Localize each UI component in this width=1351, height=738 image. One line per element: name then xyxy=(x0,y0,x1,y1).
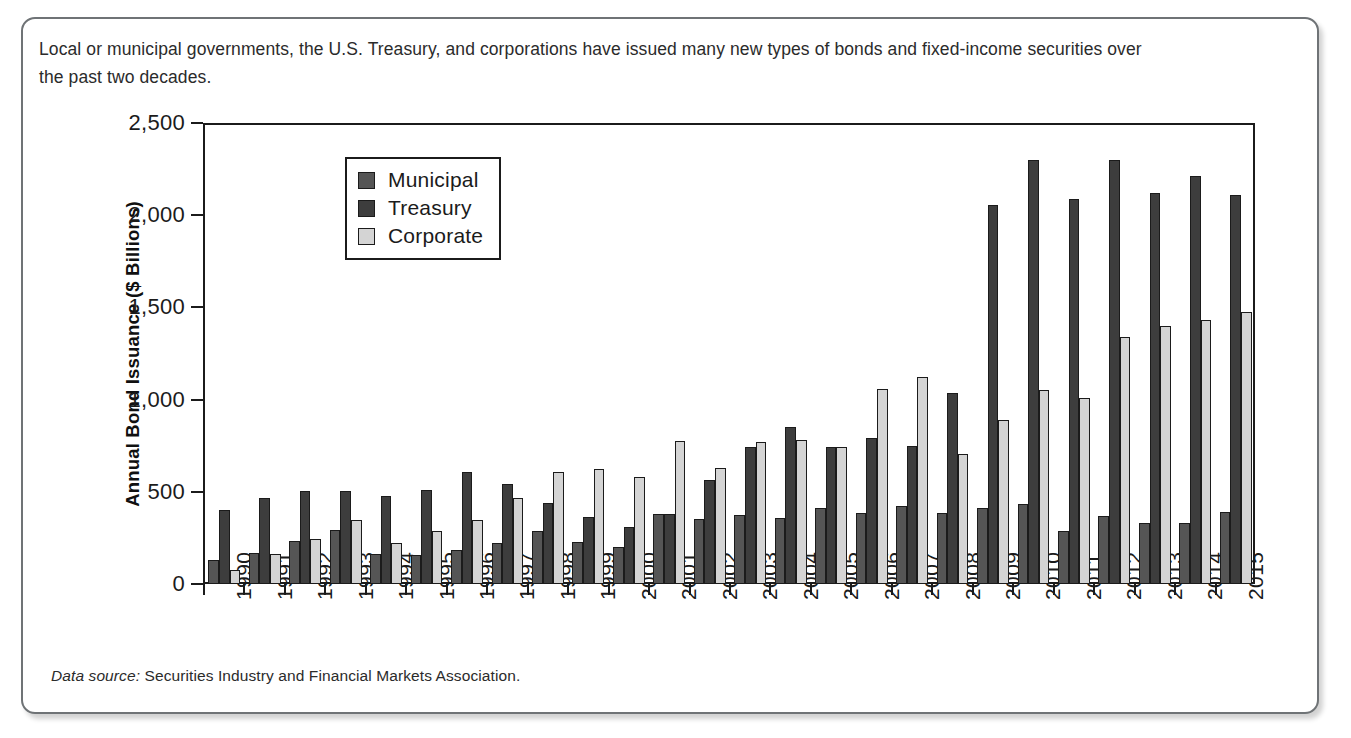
x-axis-tick xyxy=(284,584,286,595)
bar-corporate-1993 xyxy=(351,520,362,584)
bar-corporate-1996 xyxy=(472,520,483,584)
bar-treasury-2013 xyxy=(1150,193,1161,584)
bar-corporate-2015 xyxy=(1241,312,1252,584)
bar-treasury-2011 xyxy=(1069,199,1080,584)
x-axis-tick xyxy=(769,584,771,595)
bar-corporate-2014 xyxy=(1201,320,1212,584)
legend-swatch-icon xyxy=(358,172,375,189)
x-axis-tick xyxy=(729,584,731,595)
bar-municipal-2010 xyxy=(1018,504,1029,584)
bar-treasury-1990 xyxy=(219,510,230,584)
y-axis-tick-label: 0 xyxy=(172,571,185,597)
bar-municipal-2007 xyxy=(896,506,907,584)
bar-corporate-2008 xyxy=(958,454,969,584)
y-axis-tick-label: 1,500 xyxy=(128,294,185,320)
y-axis-tick xyxy=(191,491,203,493)
source-note: Data source: Securities Industry and Fin… xyxy=(51,667,520,685)
legend-label: Treasury xyxy=(388,196,472,220)
y-axis-tick xyxy=(191,583,203,585)
bar-corporate-2000 xyxy=(634,477,645,584)
bar-corporate-2011 xyxy=(1079,398,1090,584)
bar-municipal-2014 xyxy=(1179,523,1190,584)
legend-item-municipal: Municipal xyxy=(358,166,483,194)
bar-corporate-2002 xyxy=(715,468,726,584)
bar-corporate-1998 xyxy=(553,472,564,584)
x-axis-tick xyxy=(850,584,852,595)
bar-municipal-2002 xyxy=(694,519,705,584)
bar-corporate-1991 xyxy=(270,554,281,584)
x-axis-tick xyxy=(243,584,245,595)
bar-treasury-2001 xyxy=(664,514,675,584)
x-axis-tick xyxy=(931,584,933,595)
y-axis-tick xyxy=(191,306,203,308)
bar-municipal-1999 xyxy=(572,542,583,584)
legend-label: Municipal xyxy=(388,168,479,192)
bar-municipal-1995 xyxy=(411,555,422,585)
bar-treasury-2004 xyxy=(785,427,796,584)
x-axis-tick xyxy=(1012,584,1014,595)
bar-corporate-2009 xyxy=(998,420,1009,584)
bar-corporate-2001 xyxy=(675,441,686,584)
x-axis-tick xyxy=(1174,584,1176,595)
bar-municipal-1992 xyxy=(289,541,300,584)
bar-corporate-2003 xyxy=(756,442,767,584)
legend-item-corporate: Corporate xyxy=(358,222,483,250)
bar-corporate-1995 xyxy=(432,531,443,584)
bar-treasury-2002 xyxy=(704,480,715,584)
bar-corporate-2010 xyxy=(1039,390,1050,584)
bar-municipal-2001 xyxy=(653,514,664,584)
bar-treasury-1998 xyxy=(543,503,554,584)
bar-treasury-1997 xyxy=(502,484,513,584)
bar-municipal-1998 xyxy=(532,531,543,584)
bar-treasury-2007 xyxy=(907,446,918,584)
bar-municipal-2003 xyxy=(734,515,745,584)
bar-municipal-1996 xyxy=(451,550,462,584)
bar-treasury-2010 xyxy=(1028,160,1039,584)
bar-corporate-1992 xyxy=(310,539,321,584)
bar-municipal-1997 xyxy=(492,543,503,584)
bar-municipal-2013 xyxy=(1139,523,1150,584)
y-axis-title: Annual Bond Issuance ($ Billions) xyxy=(119,123,147,584)
bar-treasury-1996 xyxy=(462,472,473,584)
legend-item-treasury: Treasury xyxy=(358,194,483,222)
bar-corporate-2013 xyxy=(1160,326,1171,584)
chart-legend: MunicipalTreasuryCorporate xyxy=(345,157,501,260)
bar-treasury-1995 xyxy=(421,490,432,584)
bar-municipal-2011 xyxy=(1058,531,1069,584)
bar-treasury-1993 xyxy=(340,491,351,584)
bar-treasury-2005 xyxy=(826,447,837,584)
x-axis-tick xyxy=(689,584,691,595)
bar-municipal-2004 xyxy=(775,518,786,584)
bar-treasury-2008 xyxy=(947,393,958,584)
bar-corporate-2004 xyxy=(796,440,807,584)
x-axis-tick xyxy=(810,584,812,595)
bar-corporate-2007 xyxy=(917,377,928,584)
bar-corporate-2005 xyxy=(836,447,847,584)
y-axis-tick xyxy=(191,399,203,401)
bar-municipal-2008 xyxy=(937,513,948,584)
x-axis-tick xyxy=(405,584,407,595)
source-note-text: Securities Industry and Financial Market… xyxy=(140,667,520,684)
chart-plot-area: 05001,0001,5002,0002,500 199019911992199… xyxy=(203,123,1255,584)
legend-label: Corporate xyxy=(388,224,483,248)
x-axis-tick xyxy=(891,584,893,595)
x-axis-tick xyxy=(1093,584,1095,595)
x-axis-tick xyxy=(972,584,974,595)
x-axis-tick xyxy=(1215,584,1217,595)
x-axis-tick xyxy=(1134,584,1136,595)
x-axis-tick xyxy=(446,584,448,595)
bar-corporate-1999 xyxy=(594,469,605,584)
figure-caption: Local or municipal governments, the U.S.… xyxy=(39,35,1157,91)
bar-municipal-2005 xyxy=(815,508,826,584)
bar-treasury-1994 xyxy=(381,496,392,585)
bar-municipal-2012 xyxy=(1098,516,1109,584)
x-axis-tick xyxy=(648,584,650,595)
bar-municipal-2006 xyxy=(856,513,867,584)
bar-treasury-2009 xyxy=(988,205,999,584)
bar-corporate-1990 xyxy=(230,570,241,584)
legend-swatch-icon xyxy=(358,200,375,217)
bar-municipal-2009 xyxy=(977,508,988,584)
bar-municipal-2015 xyxy=(1220,512,1231,584)
bar-corporate-1997 xyxy=(513,498,524,584)
x-axis-tick xyxy=(486,584,488,595)
